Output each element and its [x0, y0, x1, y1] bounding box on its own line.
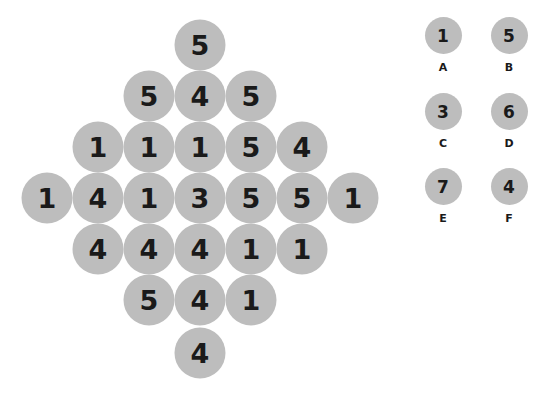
- puzzle-cell: 1: [226, 224, 277, 275]
- option-label: F: [489, 212, 529, 225]
- puzzle-cell: 4: [277, 122, 328, 173]
- puzzle-cell: 4: [175, 328, 226, 379]
- option-label: D: [489, 137, 529, 150]
- option-a[interactable]: 1A: [423, 17, 463, 74]
- option-label: B: [489, 61, 529, 74]
- puzzle-cell: 1: [328, 173, 379, 224]
- option-value: 4: [491, 168, 528, 205]
- option-label: A: [423, 61, 463, 74]
- answer-options: 1A5B3C6D7E4F: [410, 0, 543, 240]
- puzzle-cell: 5: [226, 173, 277, 224]
- puzzle-cell: 1: [124, 122, 175, 173]
- puzzle-cell: 1: [277, 224, 328, 275]
- puzzle-cell: 5: [124, 275, 175, 326]
- puzzle-cell: 4: [73, 224, 124, 275]
- option-value: 6: [491, 93, 528, 130]
- puzzle-cell: 4: [175, 224, 226, 275]
- number-diamond-puzzle: 5545111541413551444115414: [0, 0, 400, 401]
- puzzle-cell: 1: [124, 173, 175, 224]
- puzzle-cell: 5: [226, 71, 277, 122]
- option-f[interactable]: 4F: [489, 168, 529, 225]
- option-d[interactable]: 6D: [489, 93, 529, 150]
- option-b[interactable]: 5B: [489, 17, 529, 74]
- option-value: 7: [425, 168, 462, 205]
- puzzle-cell: 4: [175, 71, 226, 122]
- puzzle-cell: 4: [124, 224, 175, 275]
- option-label: E: [423, 212, 463, 225]
- puzzle-cell: 4: [175, 275, 226, 326]
- puzzle-cell: 1: [226, 275, 277, 326]
- puzzle-cell: 5: [124, 71, 175, 122]
- puzzle-cell: 5: [175, 20, 226, 71]
- option-c[interactable]: 3C: [423, 93, 463, 150]
- option-label: C: [423, 137, 463, 150]
- option-value: 5: [491, 17, 528, 54]
- option-value: 3: [425, 93, 462, 130]
- puzzle-cell: 5: [226, 122, 277, 173]
- option-e[interactable]: 7E: [423, 168, 463, 225]
- puzzle-cell: 1: [175, 122, 226, 173]
- puzzle-cell: 3: [175, 173, 226, 224]
- option-value: 1: [425, 17, 462, 54]
- puzzle-cell: 1: [22, 173, 73, 224]
- puzzle-cell: 1: [73, 122, 124, 173]
- puzzle-cell: 4: [73, 173, 124, 224]
- puzzle-cell: 5: [277, 173, 328, 224]
